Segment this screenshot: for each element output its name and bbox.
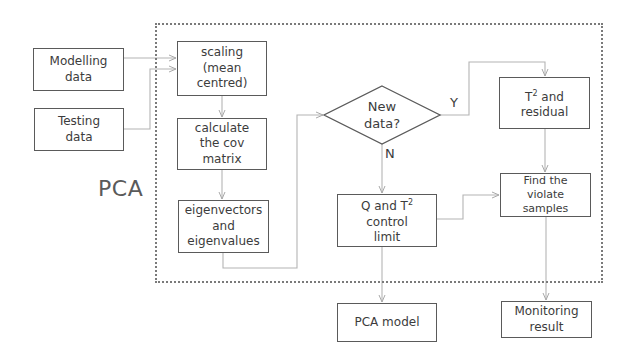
pca-flowchart: PCA Modelling data Testing data scaling … (0, 0, 631, 361)
find-violate-label: Find the violate samples (523, 174, 569, 216)
monitoring-result-label: Monitoring result (514, 304, 578, 335)
testing-data-label: Testing data (58, 114, 100, 145)
modelling-data-label: Modelling data (50, 54, 108, 85)
control-limit-label: Q and T2 control limit (361, 195, 413, 246)
scaling-box: scaling (mean centred) (177, 41, 267, 96)
monitoring-result-box: Monitoring result (501, 301, 592, 338)
decision-label: New data? (352, 98, 412, 132)
eigen-label: eigenvectors and eigenvalues (185, 203, 263, 250)
pca-model-box: PCA model (337, 303, 437, 342)
cov-matrix-label: calculate the cov matrix (195, 121, 249, 168)
decision-no-label: N (385, 146, 395, 161)
scaling-label: scaling (mean centred) (197, 45, 248, 92)
modelling-data-box: Modelling data (33, 48, 124, 91)
t2-residual-box: T2 and residual (499, 77, 590, 129)
cov-matrix-box: calculate the cov matrix (177, 118, 267, 170)
eigen-box: eigenvectors and eigenvalues (178, 200, 269, 253)
decision-yes-label: Y (450, 95, 458, 110)
t2-residual-label: T2 and residual (521, 86, 569, 121)
testing-data-box: Testing data (34, 108, 124, 151)
find-violate-box: Find the violate samples (500, 173, 591, 217)
pca-title: PCA (98, 176, 143, 201)
pca-model-label: PCA model (354, 315, 419, 331)
control-limit-box: Q and T2 control limit (337, 194, 437, 247)
